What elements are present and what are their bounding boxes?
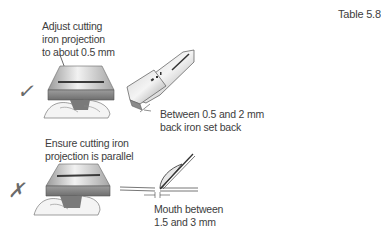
illustrations — [0, 0, 381, 234]
plane-sole-incorrect-illustration — [34, 164, 110, 215]
plane-sole-correct-illustration — [44, 55, 114, 118]
plane-mouth-illustration — [120, 154, 198, 198]
cutting-iron-assembly-illustration — [127, 50, 194, 112]
